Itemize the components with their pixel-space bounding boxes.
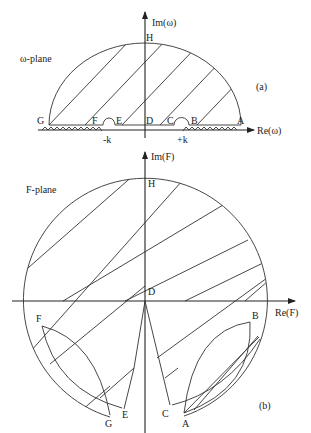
hatch-lines xyxy=(49,40,278,125)
wedge-D-E xyxy=(124,301,145,409)
panel-a-omega-plane: ω-plane (a) Re(ω) Im(ω) H G F E D C B A … xyxy=(20,12,281,145)
point-label-E: E xyxy=(122,409,128,420)
axis-label-re-omega: Re(ω) xyxy=(257,125,281,137)
panel-b-f-plane: F-plane (b) Re(F) Im(F) H D F B E C G A xyxy=(12,151,298,433)
plane-label-f: F-plane xyxy=(26,184,57,195)
panel-tag-b: (b) xyxy=(259,400,271,412)
line-A-outer xyxy=(184,337,259,413)
conformal-map-figure: ω-plane (a) Re(ω) Im(ω) H G F E D C B A … xyxy=(0,0,311,433)
point-label-F: F xyxy=(92,115,98,126)
point-label-D: D xyxy=(146,115,153,126)
point-label-B: B xyxy=(191,115,198,126)
point-label-B: B xyxy=(252,310,259,321)
plane-label-omega: ω-plane xyxy=(20,53,52,64)
panel-tag-a: (a) xyxy=(256,81,267,93)
lens-left-contour xyxy=(42,326,110,415)
point-label-C: C xyxy=(167,115,174,126)
axis-label-im-f: Im(F) xyxy=(151,151,174,163)
point-label-F: F xyxy=(36,313,42,324)
wedge-D-C xyxy=(145,301,170,405)
point-label-A: A xyxy=(237,115,245,126)
point-label-G: G xyxy=(37,115,44,126)
branch-point-plus-k: +k xyxy=(177,134,188,145)
point-label-G: G xyxy=(105,418,112,429)
branch-point-minus-k: -k xyxy=(103,134,111,145)
point-label-A: A xyxy=(182,418,190,429)
axis-label-re-f: Re(F) xyxy=(275,307,298,319)
point-label-D: D xyxy=(148,286,155,297)
axis-label-im-omega: Im(ω) xyxy=(152,17,176,29)
point-label-H: H xyxy=(146,32,153,43)
point-label-C: C xyxy=(162,408,169,419)
point-label-H: H xyxy=(148,178,155,189)
point-label-E: E xyxy=(116,115,122,126)
